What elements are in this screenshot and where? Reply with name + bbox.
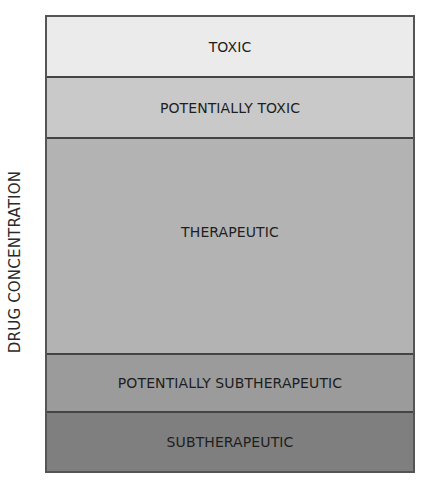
band-label-potentially-toxic: POTENTIALLY TOXIC [160, 100, 300, 116]
band-label-subtherapeutic: SUBTHERAPEUTIC [167, 434, 294, 450]
concentration-bands-chart: TOXIC POTENTIALLY TOXIC THERAPEUTIC POTE… [45, 15, 415, 473]
band-potentially-subtherapeutic: POTENTIALLY SUBTHERAPEUTIC [47, 353, 413, 411]
band-subtherapeutic: SUBTHERAPEUTIC [47, 411, 413, 471]
band-toxic: TOXIC [47, 17, 413, 76]
band-label-toxic: TOXIC [209, 39, 252, 55]
band-therapeutic: THERAPEUTIC [47, 137, 413, 353]
band-label-therapeutic: THERAPEUTIC [181, 224, 279, 240]
y-axis-label: DRUG CONCENTRATION [6, 171, 24, 353]
band-label-potentially-subtherapeutic: POTENTIALLY SUBTHERAPEUTIC [118, 375, 342, 391]
band-potentially-toxic: POTENTIALLY TOXIC [47, 76, 413, 137]
